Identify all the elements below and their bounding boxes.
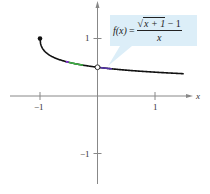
x-ticks: −1 1 (34, 92, 158, 112)
fraction: √x + 1 − 1 x (137, 18, 182, 43)
open-point-hole (95, 65, 100, 70)
function-callout: f(x) = √x + 1 − 1 x (110, 15, 197, 46)
radicand: x + 1 (143, 17, 165, 29)
x-tick-label: 1 (153, 102, 158, 112)
callout-pointer (108, 46, 132, 66)
highlight-segments (66, 62, 112, 69)
y-tick-label: 1 (85, 33, 90, 43)
y-tick-label: −1 (80, 149, 90, 159)
equals-sign: = (129, 25, 135, 36)
denominator: x (157, 31, 161, 43)
x-axis-arrow-icon (186, 94, 193, 98)
y-axis-arrow-icon (96, 1, 100, 8)
highlight-segment (100, 68, 112, 69)
numerator: √x + 1 − 1 (137, 18, 182, 31)
highlight-segment (69, 62, 83, 65)
function-name: f(x) (113, 25, 127, 36)
highlight-segment (66, 62, 69, 63)
x-tick-label: −1 (34, 102, 44, 112)
numerator-rest: − 1 (165, 18, 181, 29)
x-axis: x (10, 91, 200, 101)
closed-endpoint (38, 36, 43, 41)
x-axis-label: x (195, 91, 200, 101)
y-axis (96, 1, 100, 184)
